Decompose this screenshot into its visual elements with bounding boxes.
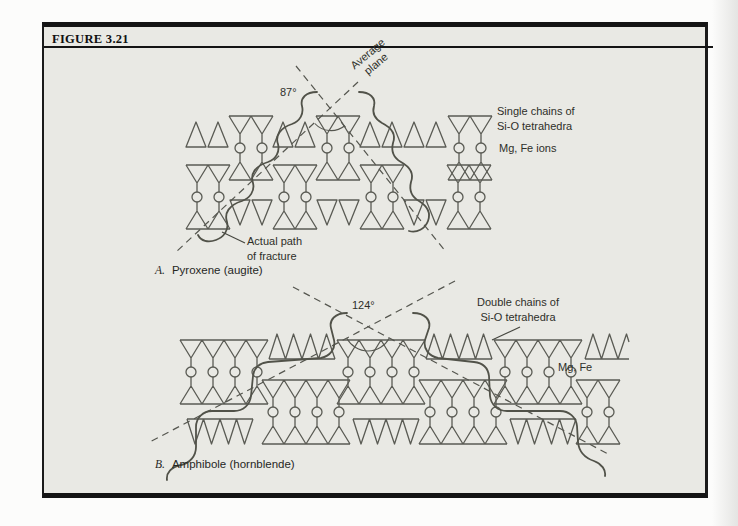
crystal-structure-drawing <box>0 0 738 526</box>
panel-a-ions-label: Mg, Fe ions <box>499 141 556 156</box>
panel-a-angle-label: 87° <box>280 85 297 100</box>
textbook-page: FIGURE 3.21 <box>0 0 738 526</box>
panel-a-caption-letter: A. <box>155 264 165 276</box>
page-edge-shadow <box>712 0 738 526</box>
panel-b-tetrahedra-rows <box>180 334 629 444</box>
panel-a-fracture-label: Actual path of fracture <box>247 234 302 263</box>
panel-a-fracture-paths <box>198 92 429 243</box>
panel-b-caption-text: Amphibole (hornblende) <box>172 458 295 470</box>
panel-a-caption: A.Pyroxene (augite) <box>155 263 263 278</box>
panel-a-tetrahedra-rows <box>186 116 492 229</box>
panel-a-caption-text: Pyroxene (augite) <box>172 264 263 276</box>
panel-b-chains-label: Double chains of Si-O tetrahedra <box>462 295 574 324</box>
panel-b-ions-label: Mg, Fe <box>558 360 592 375</box>
panel-b-caption-letter: B. <box>155 458 165 470</box>
panel-a-cleavage-planes <box>176 66 446 252</box>
panel-a-chains-label: Single chains of Si-O tetrahedra <box>497 104 575 133</box>
panel-b-caption: B.Amphibole (hornblende) <box>155 457 295 472</box>
panel-b-angle-label: 124° <box>352 298 375 313</box>
